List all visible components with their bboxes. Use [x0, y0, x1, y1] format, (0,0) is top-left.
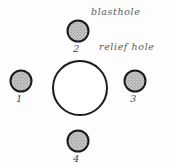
- annotation-relief-hole: relief hole: [99, 42, 155, 52]
- blasthole-label-1: 1: [16, 94, 23, 104]
- relief-hole-circle: [53, 61, 107, 115]
- blasthole-circle-3: [125, 71, 146, 92]
- blasthole-pattern-diagram: blasthole relief hole 1 2 3 4: [0, 0, 169, 166]
- blasthole-label-2: 2: [73, 44, 80, 54]
- diagram-canvas: [0, 0, 169, 166]
- blasthole-circle-4: [68, 131, 89, 152]
- blasthole-circle-1: [11, 71, 32, 92]
- blasthole-label-4: 4: [73, 154, 80, 164]
- blasthole-label-3: 3: [130, 94, 137, 104]
- annotation-blasthole: blasthole: [91, 7, 140, 17]
- blasthole-circle-2: [68, 21, 89, 42]
